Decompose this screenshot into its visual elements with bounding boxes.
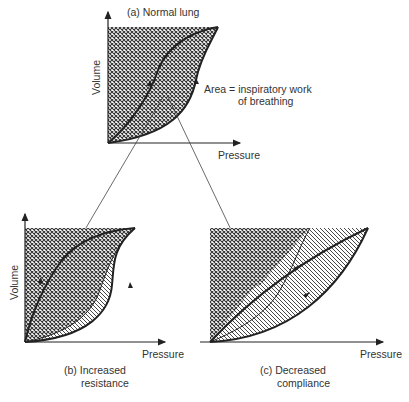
- panel-b-caption-line1: (b) Increased: [64, 364, 126, 376]
- panel-b-caption-line2: resistance: [81, 377, 129, 389]
- area-annotation-line1: Area = inspiratory work: [204, 83, 312, 95]
- panel-c-caption-line2: compliance: [277, 377, 330, 389]
- panel-a-ylabel: Volume: [90, 60, 102, 95]
- arrow-up-icon: [128, 282, 133, 288]
- panel-decreased-compliance: Pressure (c) Decreased compliance: [200, 228, 402, 389]
- lung-pressure-volume-diagram: (a) Normal lung Volume Pressure Area = i…: [0, 0, 409, 402]
- panel-c-xlabel: Pressure: [360, 348, 402, 360]
- panel-b-xlabel: Pressure: [142, 348, 184, 360]
- panel-increased-resistance: Volume Pressure (b) Increased resistance: [8, 214, 184, 389]
- panel-c-caption-line1: (c) Decreased: [260, 364, 326, 376]
- panel-a-title: (a) Normal lung: [127, 6, 200, 18]
- panel-a-xlabel: Pressure: [218, 149, 260, 161]
- panel-b-ylabel: Volume: [8, 265, 20, 300]
- panel-normal-lung: (a) Normal lung Volume Pressure Area = i…: [80, 6, 312, 255]
- area-annotation-line2: of breathing: [238, 95, 294, 107]
